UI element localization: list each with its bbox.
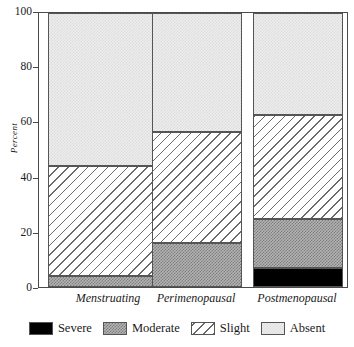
y-tick-label-20: 20 — [2, 227, 32, 239]
y-tick-label-60: 60 — [2, 116, 32, 128]
x-label-postmenopausal: Postmenopausal — [252, 291, 342, 305]
legend-swatch-severe-icon — [29, 322, 53, 335]
segment-postmenopausal-slight — [253, 115, 343, 218]
legend-label-slight: Slight — [220, 322, 250, 335]
legend-label-severe: Severe — [58, 322, 92, 335]
legend-swatch-moderate-icon — [103, 322, 127, 335]
legend-swatch-slight-icon — [191, 322, 215, 335]
legend-item-severe: Severe — [29, 322, 92, 335]
y-tick-label-80: 80 — [2, 61, 32, 73]
legend: Severe Moderate Slight Absent — [0, 322, 354, 335]
legend-item-moderate: Moderate — [103, 322, 180, 335]
segment-perimenopausal-absent — [152, 13, 242, 132]
segment-postmenopausal-moderate — [253, 219, 343, 269]
legend-label-moderate: Moderate — [132, 322, 180, 335]
y-tick-mark-0 — [33, 288, 38, 289]
y-tick-label-0: 0 — [2, 282, 32, 294]
legend-item-slight: Slight — [191, 322, 250, 335]
legend-label-absent: Absent — [290, 322, 325, 335]
y-tick-label-40: 40 — [2, 172, 32, 184]
segment-postmenopausal-severe — [253, 268, 343, 287]
bar-perimenopausal — [152, 13, 242, 287]
legend-swatch-absent-icon — [261, 322, 285, 335]
bar-postmenopausal — [253, 13, 343, 287]
plot-area — [38, 12, 348, 288]
segment-perimenopausal-slight — [152, 132, 242, 243]
segment-postmenopausal-absent — [253, 13, 343, 115]
y-tick-label-100: 100 — [2, 6, 32, 18]
x-label-perimenopausal: Perimenopausal — [151, 291, 241, 305]
legend-item-absent: Absent — [261, 322, 325, 335]
stacked-bar-chart: Percent 100 80 60 40 20 0 — [0, 0, 354, 347]
segment-perimenopausal-moderate — [152, 243, 242, 287]
